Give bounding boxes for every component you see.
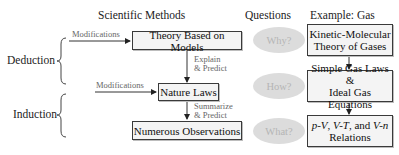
what-text: What? (265, 126, 292, 137)
simple-line1: Simple Gas Laws & (308, 62, 392, 86)
nature-laws-text: Nature Laws (160, 86, 217, 98)
theory-text: Theory Based on Models (133, 29, 241, 53)
theory-box: Theory Based on Models (132, 31, 242, 50)
summarize-predict-label: Summarize & Predict (194, 102, 233, 120)
header-scientific-methods: Scientific Methods (98, 9, 185, 21)
observations-box: Numerous Observations (132, 121, 242, 140)
how-text: How? (266, 81, 291, 92)
observations-text: Numerous Observations (134, 125, 241, 137)
vn-text: V-n (373, 119, 388, 131)
induction-label: Induction (13, 108, 57, 120)
header-questions: Questions (245, 9, 291, 21)
why-ellipse: Why? (253, 27, 305, 53)
simple-line2: Ideal Gas Equations (308, 86, 392, 110)
and-text: , and (349, 119, 373, 131)
summarize-line2: & Predict (194, 111, 233, 120)
kinetic-molecular-box: Kinetic-Molecular Theory of Gases (307, 24, 393, 56)
why-text: Why? (266, 35, 291, 46)
header-example-gas: Example: Gas (310, 9, 375, 21)
how-ellipse: How? (253, 73, 305, 99)
relations-line1: p-V, V-T, and V-n (312, 119, 389, 131)
simple-gas-laws-box: Simple Gas Laws & Ideal Gas Equations (307, 70, 393, 102)
relations-line2: Relations (329, 131, 371, 143)
explain-predict-label: Explain & Predict (194, 55, 227, 73)
kinetic-line1: Kinetic-Molecular (309, 28, 390, 40)
deduction-brace (57, 38, 66, 84)
relations-box: p-V, V-T, and V-n Relations (307, 115, 393, 147)
modifications-label-mid: Modifications (96, 81, 144, 90)
what-ellipse: What? (253, 118, 305, 144)
induction-brace (57, 94, 66, 137)
deduction-label: Deduction (7, 54, 55, 66)
nature-laws-box: Nature Laws (158, 83, 219, 101)
pv-text: p-V (312, 119, 328, 131)
modifications-label-top: Modifications (72, 30, 120, 39)
explain-line2: & Predict (194, 64, 227, 73)
vt-text: V-T (333, 119, 349, 131)
kinetic-line2: Theory of Gases (314, 40, 387, 52)
